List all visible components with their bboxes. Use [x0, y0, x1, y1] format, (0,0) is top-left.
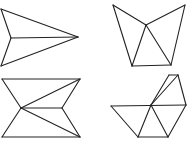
- sail-figure: [111, 75, 186, 137]
- edge-AB: [1, 9, 11, 38]
- edge-AD: [1, 9, 78, 37]
- edge-GC: [168, 105, 186, 137]
- edge-CE: [171, 5, 185, 65]
- arrowhead-figure: [1, 9, 78, 66]
- edge-AC: [111, 105, 186, 106]
- edge-CE: [2, 108, 21, 137]
- geometry-canvas: [0, 0, 187, 144]
- edge-BC: [146, 5, 185, 25]
- edge-EC: [178, 75, 186, 105]
- edge-BD: [151, 75, 169, 105]
- edge-BG: [151, 105, 168, 137]
- cup-figure: [113, 5, 185, 66]
- edge-AC: [2, 79, 21, 108]
- edge-BC: [1, 38, 11, 66]
- edge-BE: [146, 25, 171, 65]
- edge-DE: [132, 65, 171, 66]
- bowtie-figure: [2, 79, 80, 137]
- edge-BD: [11, 37, 78, 38]
- edge-CD: [1, 37, 78, 66]
- edge-AF: [111, 106, 138, 137]
- edge-BD: [132, 25, 146, 66]
- edge-BF: [138, 105, 151, 137]
- edge-BE: [151, 75, 178, 105]
